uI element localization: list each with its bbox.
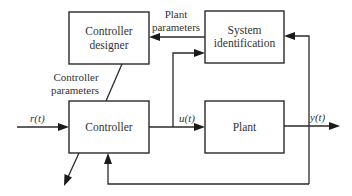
block-plant: Plant: [205, 101, 284, 153]
edge-controller-diagonal-out: [64, 153, 79, 186]
edge-plant-parameters-label-line1: Plant: [165, 8, 188, 20]
edge-controller-parameters-label-line2: parameters: [51, 84, 99, 96]
edge-plant-parameters-label-line2: parameters: [152, 21, 200, 33]
block-controller: Controller: [69, 101, 149, 153]
signal-output-label: y(t): [309, 111, 326, 124]
block-system-identification-label-line1: System: [228, 24, 262, 37]
arrowhead-icon: [194, 123, 205, 131]
arrowhead-icon: [104, 153, 112, 164]
arrowhead-icon: [194, 49, 205, 57]
block-system-identification-label-line2: identification: [214, 37, 276, 49]
signal-reference-input: r(t): [17, 112, 69, 131]
signal-control-label: u(t): [179, 112, 195, 125]
arrowhead-icon: [58, 123, 69, 131]
block-controller-designer: Controller designer: [69, 12, 149, 64]
block-plant-label: Plant: [233, 121, 257, 133]
arrowhead-icon: [64, 174, 72, 186]
block-controller-designer-label-line2: designer: [90, 39, 129, 52]
edge-controller-parameters-label-line1: Controller: [53, 71, 99, 83]
arrowhead-icon: [329, 122, 340, 130]
block-system-identification: System identification: [205, 11, 284, 63]
adaptive-control-block-diagram: Controller designer System identificatio…: [0, 0, 352, 196]
signal-control: u(t): [149, 49, 205, 131]
edge-controller-parameters: Controller parameters: [51, 64, 122, 101]
signal-reference-label: r(t): [30, 112, 45, 125]
edge-plant-parameters: Plant parameters: [149, 8, 205, 41]
arrowhead-icon: [284, 32, 295, 40]
arrowhead-icon: [149, 33, 160, 41]
block-controller-designer-label-line1: Controller: [85, 25, 132, 37]
block-controller-label: Controller: [85, 121, 132, 133]
